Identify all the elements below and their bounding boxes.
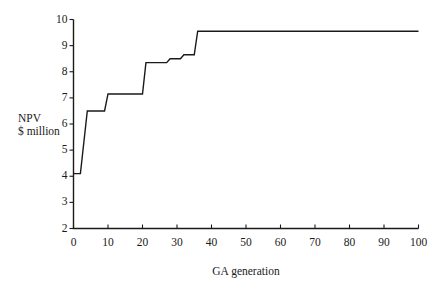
y-tick-label: 2 [28,223,68,235]
npv-step-line [74,31,419,173]
y-tick-label: 9 [28,40,68,52]
chart-axes [74,20,419,229]
y-axis-title-line-1: NPV [18,112,60,125]
chart-tick-marks [70,20,419,229]
y-tick-label: 5 [28,144,68,156]
y-tick-label: 10 [28,14,68,26]
y-tick-label: 8 [28,66,68,78]
x-tick-label: 100 [399,237,439,249]
npv-vs-ga-generation-chart: 2345678910 0102030405060708090100 NPV $ … [0,0,446,285]
y-axis-title: NPV $ million [18,112,60,137]
y-tick-label: 3 [28,196,68,208]
y-tick-label: 7 [28,92,68,104]
y-tick-label: 4 [28,170,68,182]
y-axis-title-line-2: $ million [18,125,60,138]
x-axis-title: GA generation [0,265,446,277]
